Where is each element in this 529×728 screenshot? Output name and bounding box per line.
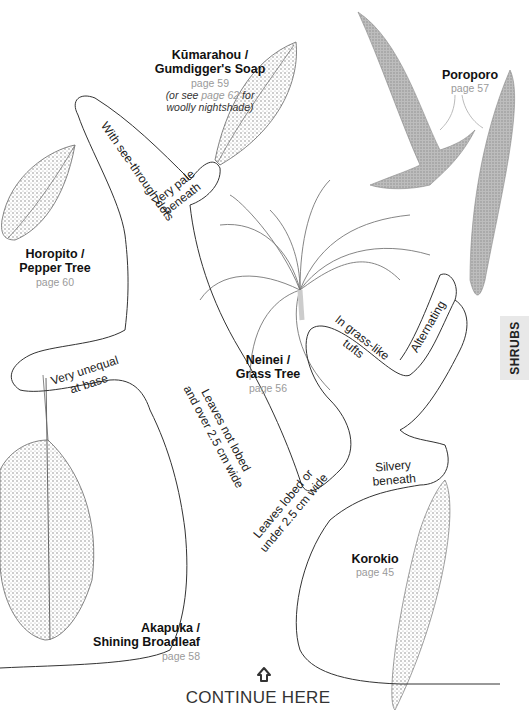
- plant-label-akapuka: Akapuka / Shining Broadleaf page 58: [70, 621, 200, 662]
- plant-label-poroporo: Poroporo page 57: [430, 68, 510, 94]
- plant-name: Gumdigger's Soap: [140, 62, 280, 76]
- plant-name: Kūmarahou /: [140, 48, 280, 62]
- akapuka-leaf-illustration: [0, 375, 94, 640]
- poroporo-leaf-illustration: [358, 12, 515, 295]
- plant-label-kumarahou: Kūmarahou / Gumdigger's Soap page 59 (or…: [140, 48, 280, 113]
- alternate-note: (or see page 62 for: [140, 89, 280, 101]
- continue-label: CONTINUE HERE: [168, 688, 348, 708]
- page-reference-link[interactable]: page 58: [70, 650, 200, 662]
- page-reference-link[interactable]: page 45: [340, 566, 410, 578]
- page-reference-link[interactable]: page 59: [140, 77, 280, 89]
- plant-label-neinei: Neinei / Grass Tree page 56: [228, 353, 308, 394]
- horopito-leaf-illustration: [2, 145, 75, 240]
- section-tab-shrubs[interactable]: SHRUBS: [500, 316, 529, 380]
- page-reference-link[interactable]: page 62: [201, 89, 239, 101]
- continue-here-button[interactable]: CONTINUE HERE: [168, 668, 348, 708]
- page-reference-link[interactable]: page 60: [15, 276, 95, 288]
- plant-label-korokio: Korokio page 45: [340, 552, 410, 578]
- plant-label-horopito: Horopito / Pepper Tree page 60: [15, 247, 95, 288]
- page-reference-link[interactable]: page 56: [228, 382, 308, 394]
- korokio-leaf-illustration: [392, 480, 450, 710]
- key-label-silvery-beneath: Silverybeneath: [371, 458, 417, 489]
- page-reference-link[interactable]: page 57: [430, 82, 510, 94]
